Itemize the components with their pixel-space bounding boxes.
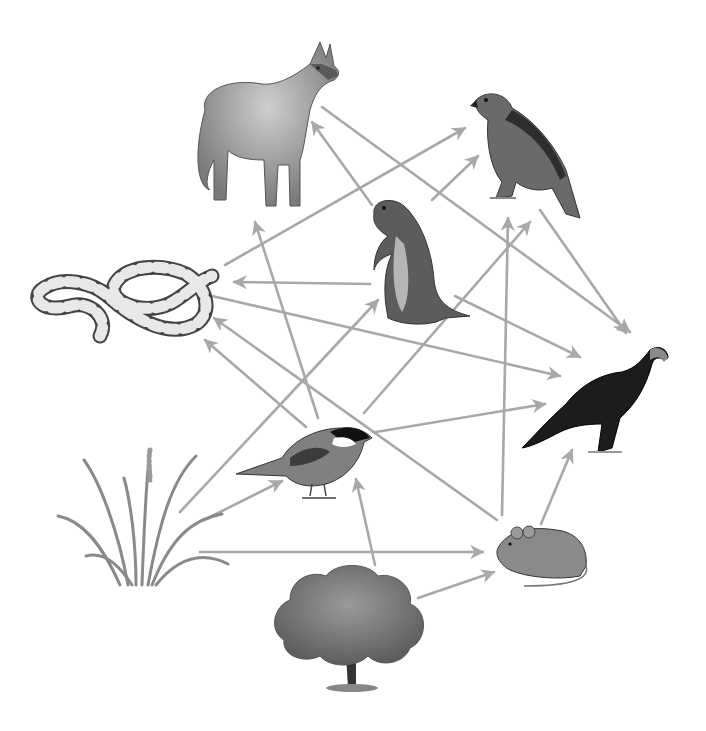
arrow-grass-to-chickadee [212,481,282,516]
arrow-mouse-to-vulture [541,450,572,524]
arrow-gopher-to-vulture [455,296,580,357]
mouse-illustration [497,526,587,586]
snake-illustration [38,267,212,336]
arrow-hawk-to-vulture [540,210,626,333]
grass-illustration [58,450,228,585]
arrow-gopher-to-snake [234,282,370,284]
arrow-chickadee-to-wolf [255,222,318,418]
arrow-grass-to-gopher [180,300,378,512]
arrow-tree-to-mouse [418,572,494,598]
arrow-chickadee-to-snake [205,340,306,427]
coyote-illustration [198,42,339,206]
arrow-wolf-to-vulture [322,107,630,332]
arrow-gopher-to-hawk [432,156,478,200]
food-web-diagram [0,0,706,731]
chickadee-illustration [236,428,372,498]
hawk-illustration [470,94,580,218]
arrow-chickadee-to-vulture [376,404,545,432]
arrow-gopher-to-wolf [312,122,372,205]
arrow-mouse-to-hawk [502,218,508,515]
shrub-illustration [275,566,424,693]
vulture-illustration [522,348,668,452]
prairie-dog-illustration [374,200,470,324]
